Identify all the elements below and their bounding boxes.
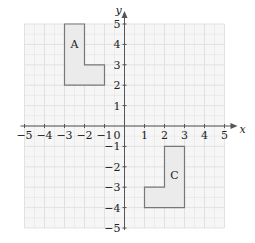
y-tick-label: −2 (104, 161, 120, 174)
shape-label-C: C (170, 169, 178, 182)
shape-label-A: A (70, 38, 80, 51)
x-axis-label: x (240, 123, 247, 136)
y-tick-label: −3 (104, 181, 120, 194)
x-tick-label: 2 (161, 129, 168, 142)
coordinate-grid: AC xy −5−4−3−2−11234554321−1−2−3−4−50 (0, 0, 255, 243)
y-tick-label: 1 (114, 100, 121, 113)
y-tick-label: 5 (114, 18, 121, 31)
y-axis-arrow-icon (122, 11, 128, 18)
x-tick-label: 3 (181, 129, 188, 142)
y-axis-label: y (115, 4, 123, 17)
y-tick-label: 4 (114, 38, 121, 51)
x-tick-label: 5 (221, 129, 228, 142)
y-tick-label: −1 (104, 140, 120, 153)
x-tick-label: −3 (56, 129, 72, 142)
x-tick-label: −4 (36, 129, 52, 142)
x-axis-arrow-icon (231, 123, 238, 129)
y-tick-label: −4 (104, 202, 120, 215)
origin-label: 0 (114, 129, 121, 142)
y-tick-label: 3 (114, 59, 121, 72)
x-tick-label: −2 (76, 129, 92, 142)
x-tick-label: 4 (201, 129, 208, 142)
x-tick-label: 1 (141, 129, 148, 142)
y-tick-label: 2 (114, 79, 121, 92)
x-tick-label: −5 (16, 129, 32, 142)
y-tick-label: −5 (104, 222, 120, 235)
